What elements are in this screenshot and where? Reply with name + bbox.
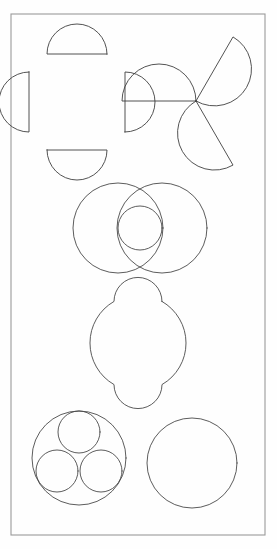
two-overlapping-circles-with-inner-circle	[73, 183, 207, 273]
semicircle-left	[0, 72, 29, 132]
semicircle-bottom	[47, 150, 107, 180]
notched-disc-outline	[90, 277, 186, 408]
inner-small-circle	[118, 206, 162, 250]
pinwheel-blade-1	[196, 37, 252, 106]
inner-circle-bottom-right	[80, 450, 122, 492]
plain-circle	[147, 418, 237, 508]
three-circles-in-circle	[32, 411, 126, 505]
semicircle-right	[125, 72, 155, 132]
plain-circle-outline	[147, 418, 237, 508]
outer-border	[11, 14, 265, 535]
figure-canvas	[0, 0, 277, 549]
three-semicircle-pinwheel	[122, 37, 252, 170]
four-semicircle-cross	[0, 24, 155, 180]
semicircle-top	[47, 24, 107, 54]
circle-with-two-notches	[90, 277, 186, 408]
pinwheel-blade-3	[122, 64, 196, 101]
outer-circle	[32, 411, 126, 505]
pinwheel-blade-2	[177, 101, 233, 170]
inner-circle-bottom-left	[36, 450, 78, 492]
figure-sheet	[0, 0, 277, 549]
inner-circle-top	[58, 411, 100, 453]
